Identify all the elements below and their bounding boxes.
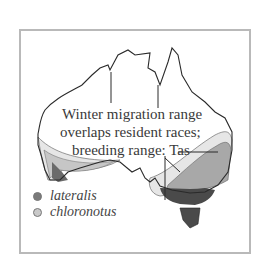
annotation-line-1: Winter migration range bbox=[62, 107, 202, 122]
legend-swatch-icon bbox=[33, 192, 42, 201]
legend-item-lateralis: lateralis bbox=[33, 188, 97, 204]
annotation-line-3: breeding range: Tas bbox=[72, 143, 190, 158]
legend-swatch-icon bbox=[33, 208, 42, 217]
legend-item-chloronotus: chloronotus bbox=[33, 204, 116, 220]
annotation-line-2: overlaps resident races; bbox=[60, 125, 201, 140]
tasmania bbox=[180, 208, 200, 228]
legend-label: lateralis bbox=[50, 188, 97, 204]
legend-label: chloronotus bbox=[50, 204, 116, 220]
